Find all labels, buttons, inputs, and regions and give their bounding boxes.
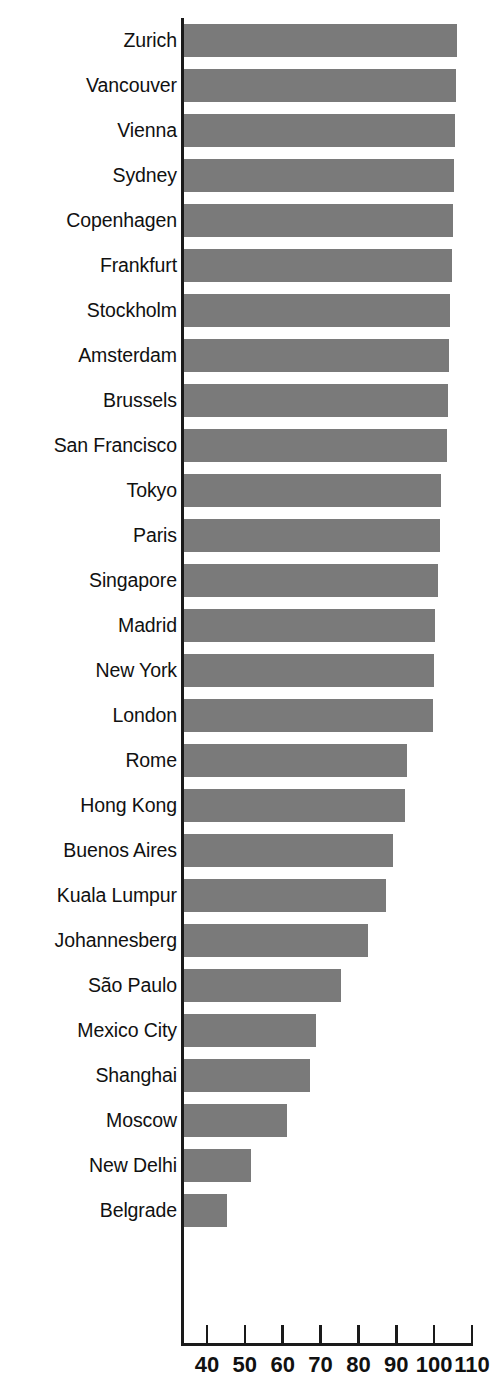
bar-row: Amsterdam bbox=[0, 333, 497, 378]
bar-row: New Delhi bbox=[0, 1143, 497, 1188]
bar-row: Tokyo bbox=[0, 468, 497, 513]
x-tick-label: 60 bbox=[270, 1352, 294, 1378]
plot-area: ZurichVancouverViennaSydneyCopenhagenFra… bbox=[0, 0, 497, 1300]
bar-row: Madrid bbox=[0, 603, 497, 648]
bar bbox=[183, 69, 456, 102]
category-label: Vancouver bbox=[86, 76, 177, 96]
x-tick bbox=[357, 1325, 360, 1343]
bar-row: Sydney bbox=[0, 153, 497, 198]
bar bbox=[183, 474, 441, 507]
x-tick-label: 80 bbox=[346, 1352, 370, 1378]
bar bbox=[183, 609, 435, 642]
bar bbox=[183, 1104, 287, 1137]
bar-row: Zurich bbox=[0, 18, 497, 63]
category-label: Moscow bbox=[106, 1111, 177, 1131]
x-tick-label: 70 bbox=[308, 1352, 332, 1378]
bar-row: London bbox=[0, 693, 497, 738]
category-label: Johannesberg bbox=[55, 931, 177, 951]
bar-chart: ZurichVancouverViennaSydneyCopenhagenFra… bbox=[0, 0, 497, 1393]
x-tick bbox=[471, 1325, 474, 1343]
category-label: New Delhi bbox=[89, 1156, 177, 1176]
bar bbox=[183, 699, 433, 732]
category-label: Frankfurt bbox=[100, 256, 177, 276]
bar-row: Frankfurt bbox=[0, 243, 497, 288]
category-label: Zurich bbox=[123, 31, 177, 51]
x-tick bbox=[433, 1325, 436, 1343]
category-label: Madrid bbox=[118, 616, 177, 636]
category-label: San Francisco bbox=[54, 436, 177, 456]
bar bbox=[183, 294, 450, 327]
category-label: Singapore bbox=[89, 571, 177, 591]
x-axis-line bbox=[181, 1343, 473, 1346]
bar bbox=[183, 834, 393, 867]
x-tick bbox=[395, 1325, 398, 1343]
bar-row: Paris bbox=[0, 513, 497, 558]
bar-row: São Paulo bbox=[0, 963, 497, 1008]
bar-row: Stockholm bbox=[0, 288, 497, 333]
bar bbox=[183, 744, 407, 777]
bar-row: Hong Kong bbox=[0, 783, 497, 828]
bar-row: Copenhagen bbox=[0, 198, 497, 243]
bar bbox=[183, 654, 434, 687]
x-tick bbox=[319, 1325, 322, 1343]
category-label: Stockholm bbox=[87, 301, 177, 321]
bar bbox=[183, 114, 455, 147]
category-label: Tokyo bbox=[127, 481, 177, 501]
category-label: Belgrade bbox=[100, 1201, 177, 1221]
category-label: Copenhagen bbox=[66, 211, 177, 231]
bar-row: Shanghai bbox=[0, 1053, 497, 1098]
bar-row: Johannesberg bbox=[0, 918, 497, 963]
bar bbox=[183, 384, 448, 417]
bar-row: Vienna bbox=[0, 108, 497, 153]
category-label: São Paulo bbox=[88, 976, 177, 996]
bar-row: Moscow bbox=[0, 1098, 497, 1143]
category-label: Shanghai bbox=[95, 1066, 177, 1086]
category-label: Amsterdam bbox=[78, 346, 177, 366]
bar bbox=[183, 1014, 316, 1047]
bar bbox=[183, 1059, 310, 1092]
bar-row: Vancouver bbox=[0, 63, 497, 108]
category-label: London bbox=[113, 706, 177, 726]
bar-row: San Francisco bbox=[0, 423, 497, 468]
category-label: Buenos Aires bbox=[63, 841, 177, 861]
category-label: Rome bbox=[125, 751, 177, 771]
x-tick bbox=[244, 1325, 247, 1343]
bar-row: Rome bbox=[0, 738, 497, 783]
category-label: Mexico City bbox=[77, 1021, 177, 1041]
bar-row: Mexico City bbox=[0, 1008, 497, 1053]
bar bbox=[183, 249, 452, 282]
bar-row: Kuala Lumpur bbox=[0, 873, 497, 918]
x-tick bbox=[281, 1325, 284, 1343]
bar bbox=[183, 519, 440, 552]
x-tick-label: 90 bbox=[384, 1352, 408, 1378]
category-label: New York bbox=[95, 661, 177, 681]
category-label: Vienna bbox=[117, 121, 177, 141]
bar-row: Brussels bbox=[0, 378, 497, 423]
x-tick-label: 110 bbox=[454, 1352, 490, 1378]
bar-row: Belgrade bbox=[0, 1188, 497, 1233]
x-tick bbox=[206, 1325, 209, 1343]
bar bbox=[183, 339, 449, 372]
bar bbox=[183, 924, 368, 957]
x-tick-label: 100 bbox=[416, 1352, 453, 1378]
bar-row: Singapore bbox=[0, 558, 497, 603]
category-label: Sydney bbox=[113, 166, 177, 186]
category-label: Paris bbox=[133, 526, 177, 546]
bar-row: New York bbox=[0, 648, 497, 693]
category-label: Hong Kong bbox=[80, 796, 177, 816]
bar bbox=[183, 429, 447, 462]
bar bbox=[183, 159, 454, 192]
y-axis-line bbox=[181, 18, 184, 1345]
bar bbox=[183, 564, 438, 597]
bar bbox=[183, 969, 341, 1002]
x-tick-label: 50 bbox=[233, 1352, 257, 1378]
bar bbox=[183, 24, 457, 57]
bar bbox=[183, 204, 453, 237]
category-label: Kuala Lumpur bbox=[57, 886, 177, 906]
category-label: Brussels bbox=[103, 391, 177, 411]
bar-row: Buenos Aires bbox=[0, 828, 497, 873]
x-tick-label: 40 bbox=[195, 1352, 219, 1378]
bar bbox=[183, 1149, 251, 1182]
bar bbox=[183, 879, 386, 912]
bar bbox=[183, 789, 405, 822]
